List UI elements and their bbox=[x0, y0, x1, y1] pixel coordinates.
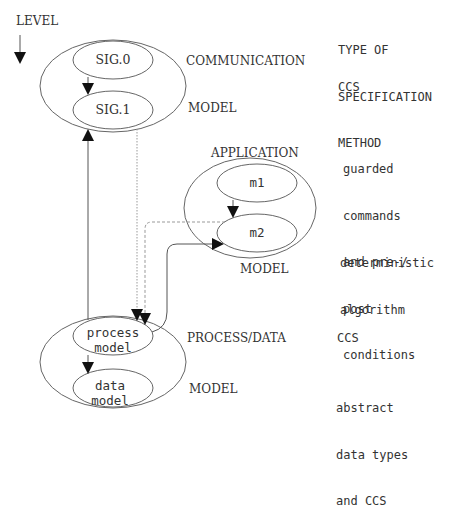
process-data-level-name-2: MODEL bbox=[189, 382, 237, 397]
application-model-ellipse bbox=[184, 158, 316, 258]
sig1-label: SIG.1 bbox=[73, 102, 153, 117]
application-level-name-2: MODEL bbox=[240, 262, 288, 277]
spec-line: abstract bbox=[336, 401, 408, 417]
spec-line: conditions bbox=[343, 348, 415, 364]
data-model-line2: model bbox=[70, 393, 150, 408]
spec-line: deterministic bbox=[340, 256, 434, 272]
communication-level-name: COMMUNICATION bbox=[186, 54, 305, 69]
spec-line: data types bbox=[336, 448, 408, 464]
process-model-line1: process bbox=[73, 325, 153, 340]
sig0-label: SIG.0 bbox=[73, 52, 153, 67]
spec-header-line: TYPE OF bbox=[338, 43, 432, 59]
m1-label: m1 bbox=[217, 175, 297, 190]
spec-line: and CCS bbox=[336, 494, 408, 509]
application-level-name: APPLICATION bbox=[211, 146, 299, 161]
m2-to-process-edge bbox=[145, 222, 225, 313]
communication-spec-method: CCS bbox=[338, 80, 360, 96]
process-data-level-name: PROCESS/DATA bbox=[187, 331, 286, 346]
m2-label: m2 bbox=[217, 225, 297, 240]
level-label: LEVEL bbox=[16, 14, 58, 29]
spec-line: commands bbox=[343, 209, 415, 225]
process-data-spec-method-top: CCS bbox=[337, 331, 359, 347]
application-spec-method-bottom: deterministic algorithm bbox=[340, 225, 434, 334]
process-to-m2-edge bbox=[152, 244, 212, 332]
data-model-line1: data bbox=[70, 378, 150, 393]
data-model-label: data model bbox=[70, 378, 150, 408]
process-data-spec-method-bottom: abstract data types and CCS bbox=[336, 370, 408, 509]
spec-line: algorithm bbox=[340, 303, 434, 319]
process-model-label: process model bbox=[73, 325, 153, 355]
spec-line: guarded bbox=[343, 162, 415, 178]
communication-level-name-2: MODEL bbox=[188, 101, 236, 116]
level-arrow-icon bbox=[14, 35, 26, 64]
process-model-line2: model bbox=[73, 340, 153, 355]
